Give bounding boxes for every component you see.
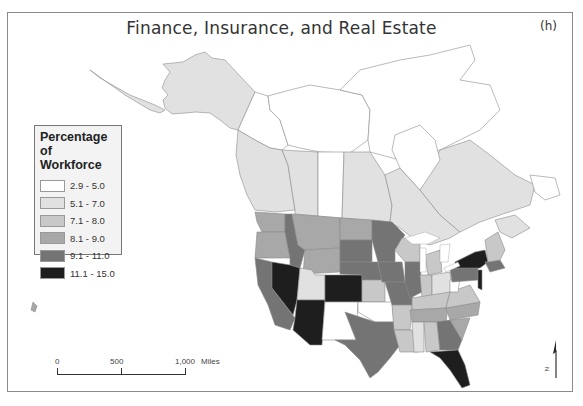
scale-tick [57, 368, 58, 375]
region-florida [430, 350, 470, 388]
region-maine-vermont [485, 232, 505, 262]
region-indiana [420, 275, 432, 298]
legend-item: 2.9 - 5.0 [40, 177, 116, 195]
region-arkansas [392, 305, 412, 330]
region-kentucky [412, 292, 450, 310]
scale-bar: 0 500 1,000 Miles [50, 357, 210, 387]
region-michigan [425, 250, 442, 275]
legend-swatch [40, 267, 65, 279]
north-arrow-icon [545, 340, 565, 380]
region-kansas [362, 280, 385, 302]
region-saskatchewan [318, 152, 344, 218]
lake-huron [440, 244, 450, 262]
legend-item: 5.1 - 7.0 [40, 195, 116, 213]
legend-swatch [40, 180, 65, 192]
region-iowa [378, 262, 405, 282]
legend-title: Percentage of Workforce [40, 130, 116, 172]
legend-swatch [40, 232, 65, 244]
lake-michigan [420, 248, 426, 272]
region-manitoba [342, 152, 392, 222]
legend-swatch [40, 250, 65, 262]
region-tennessee [410, 308, 448, 322]
region-new-jersey-delaware [478, 270, 482, 290]
scale-tick [121, 368, 122, 375]
region-north-dakota [340, 218, 372, 240]
region-newfoundland [530, 175, 560, 200]
legend-item: 7.1 - 8.0 [40, 212, 116, 230]
region-oregon [255, 232, 290, 258]
region-alaska [162, 52, 255, 130]
legend-item: 11.1 - 15.0 [40, 265, 116, 283]
legend-item: 9.1 - 11.0 [40, 247, 116, 265]
legend: Percentage of Workforce 2.9 - 5.0 5.1 - … [34, 125, 122, 255]
aleutian-islands [90, 70, 165, 113]
legend-swatch [40, 215, 65, 227]
region-montana [292, 214, 340, 250]
north-arrow: N [545, 340, 565, 380]
region-mississippi [412, 322, 424, 352]
region-washington [255, 212, 285, 232]
region-arizona [293, 300, 325, 345]
legend-item: 8.1 - 9.0 [40, 230, 116, 248]
region-maritimes [495, 215, 530, 238]
region-south-dakota [340, 240, 372, 262]
scale-tick [185, 368, 186, 375]
region-new-york [455, 250, 488, 268]
region-colorado [325, 275, 362, 302]
legend-swatch [40, 197, 65, 209]
region-hawaii [31, 302, 37, 312]
